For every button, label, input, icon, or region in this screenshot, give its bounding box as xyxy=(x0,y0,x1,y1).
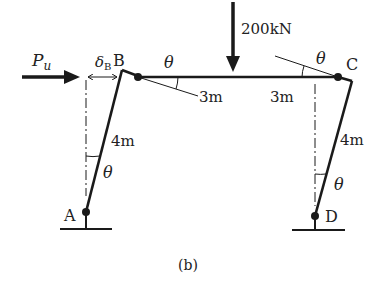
rotation-reference-line-c xyxy=(275,56,338,77)
angle-label-a: θ xyxy=(103,163,113,182)
angle-label-b: θ xyxy=(164,53,174,72)
beam-left-dimension: 3m xyxy=(199,88,223,106)
angle-label-c: θ xyxy=(316,49,326,68)
node-label-a: A xyxy=(63,206,76,225)
node-label-c: C xyxy=(346,55,358,74)
displacement-label: δB xyxy=(95,53,111,72)
angle-arc-b xyxy=(176,77,178,89)
hinge-b xyxy=(134,73,142,81)
node-label-b: B xyxy=(113,51,125,70)
lateral-load-label: Pu xyxy=(31,50,51,73)
angle-label-d: θ xyxy=(334,175,344,194)
beam-right-dimension: 3m xyxy=(270,88,294,106)
right-column-dimension: 4m xyxy=(340,131,364,149)
angle-arc-c xyxy=(302,66,304,77)
angle-arc-a xyxy=(86,156,100,157)
node-label-d: D xyxy=(325,207,338,226)
vertical-load-arrow xyxy=(226,2,240,72)
rotation-reference-line-b xyxy=(138,77,198,96)
figure-caption: (b) xyxy=(178,257,198,273)
frame-mechanism-diagram: Pu δB B 200kN θ θ C 3m 3m 4m 4m θ θ xyxy=(0,0,386,288)
vertical-load-label: 200kN xyxy=(241,20,292,38)
left-column-dimension: 4m xyxy=(111,132,135,150)
